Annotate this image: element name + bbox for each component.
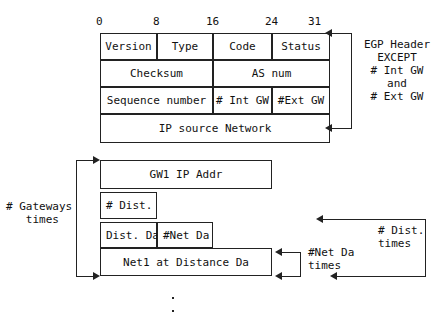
annotation-gateways-times: # Gateways times (6, 200, 76, 226)
dist-times-top-arrowhead (316, 215, 323, 223)
dist-times-bottom-arrowhead (330, 272, 337, 280)
bit-tick-31: 31 (308, 16, 321, 27)
dist-times-bracket-bottom-arm (336, 276, 426, 277)
egp-header-bracket-spine (351, 33, 352, 129)
field-type: Type (157, 33, 213, 60)
annotation-egp-header: EGP Header EXCEPT # Int GW and # Ext GW (358, 38, 436, 103)
continuation-dot-1 (172, 297, 174, 299)
dist-times-bracket-top-arm (322, 219, 426, 220)
bit-tick-24: 24 (265, 16, 278, 27)
field-sequence-number: Sequence number (100, 87, 213, 114)
net-da-top-arrowhead (275, 248, 282, 256)
egp-header-bottom-arrowhead (325, 124, 332, 132)
egp-header-top-arrowhead (325, 29, 332, 37)
egp-header-bracket-bottom-arm (331, 128, 352, 129)
gateways-bracket-top-arm (76, 160, 94, 161)
gateways-top-arrowhead (93, 156, 100, 164)
net-da-bracket-top-arm (281, 252, 301, 253)
field-as-num: AS num (213, 60, 330, 87)
field-ip-source-network: IP source Network (100, 114, 330, 143)
annotation-net-da-times: #Net Da times (308, 246, 368, 272)
field-int-gw: # Int GW (213, 87, 272, 114)
bit-tick-16: 16 (206, 16, 219, 27)
field-gw1-ip-addr: GW1 IP Addr (100, 160, 272, 189)
continuation-dot-2 (172, 310, 174, 312)
net-da-bracket-spine (300, 252, 301, 276)
net-da-bracket-bottom-arm (281, 276, 301, 277)
net-da-bottom-arrowhead (275, 272, 282, 280)
field-status: Status (272, 33, 330, 60)
field-checksum: Checksum (100, 60, 213, 87)
field-ext-gw: #Ext GW (272, 87, 330, 114)
field-code: Code (213, 33, 272, 60)
bit-tick-0: 0 (96, 16, 103, 27)
egp-packet-format-diagram: 0 8 16 24 31 Version Type Code Status Ch… (0, 0, 438, 324)
field-dist-da: Dist. Da (100, 222, 157, 248)
gateways-bottom-arrowhead (93, 272, 100, 280)
field-dist-count: # Dist. (100, 192, 157, 219)
annotation-dist-times: # Dist. times (378, 224, 438, 250)
gateways-bracket-bottom-arm (76, 276, 94, 277)
bit-tick-8: 8 (153, 16, 160, 27)
egp-header-bracket-top-arm (331, 33, 352, 34)
field-net1-at-distance-da: Net1 at Distance Da (100, 248, 272, 276)
field-net-da: #Net Da (157, 222, 213, 248)
gateways-bracket-spine (76, 160, 77, 276)
field-version: Version (100, 33, 157, 60)
